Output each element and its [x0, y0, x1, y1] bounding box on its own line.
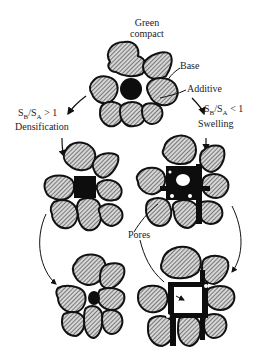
additive-particle [120, 78, 142, 100]
green-compact-cluster [90, 42, 178, 127]
ratio-rest: > 1 [42, 107, 58, 118]
right-ratio-label: SB/SA < 1 [204, 103, 243, 119]
swelling-label: Swelling [198, 118, 234, 129]
arrow-densification-final [40, 214, 56, 284]
base-label: Base [180, 60, 199, 71]
swelling-final-cluster [138, 247, 234, 346]
arrow-swelling-final [232, 206, 241, 272]
ratio-rest: < 1 [228, 103, 244, 114]
densification-intermediate-cluster [45, 143, 123, 231]
pores-label: Pores [128, 229, 150, 240]
densification-label: Densification [15, 121, 69, 132]
dissolved-additive [74, 176, 96, 198]
arrow-densification [68, 96, 86, 114]
green-compact-label-line2: compact [130, 28, 164, 39]
green-compact-label: Green compact [130, 17, 164, 39]
large-pore [174, 287, 202, 313]
sintering-diagram [0, 0, 257, 361]
arrow-swelling [192, 98, 204, 114]
additive-label: Additive [187, 83, 222, 94]
densification-final-cluster [57, 255, 125, 338]
pore [176, 174, 190, 186]
green-compact-label-line1: Green [130, 17, 164, 28]
swelling-intermediate-cluster [137, 136, 229, 228]
ratio-slash: /S [28, 107, 36, 118]
ratio-slash: /S [214, 103, 222, 114]
pores-leader-line [140, 240, 164, 282]
